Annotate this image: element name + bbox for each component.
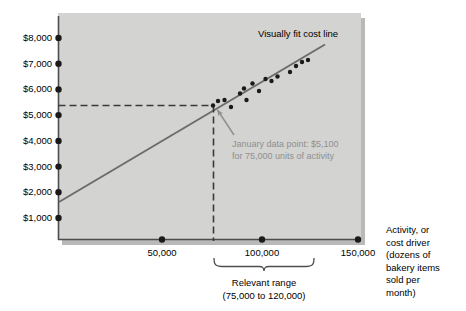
data-point <box>306 58 310 62</box>
data-point <box>222 98 226 102</box>
january-callout-line-1: January data point: $5,100 <box>232 138 339 150</box>
data-point <box>257 89 261 93</box>
data-point <box>250 81 254 85</box>
data-point <box>300 60 304 64</box>
data-point-january <box>211 103 215 107</box>
january-callout-line-2: for 75,000 units of activity <box>232 150 339 162</box>
x-axis-caption-line-2: cost driver <box>386 237 464 250</box>
visually-fit-cost-line <box>59 45 325 203</box>
relevant-range-line-1: Relevant range <box>223 276 306 289</box>
january-data-point-callout: January data point: $5,100 for 75,000 un… <box>232 138 339 162</box>
x-axis-tick-label: 100,000 <box>245 247 279 258</box>
x-axis-tick-label: 50,000 <box>147 247 176 258</box>
x-axis-caption: Activity, or cost driver (dozens of bake… <box>386 224 464 299</box>
data-point <box>229 105 233 109</box>
x-axis-caption-line-4: bakery items <box>386 262 464 275</box>
data-point <box>294 64 298 68</box>
cost-behavior-scatter-chart: $8,000$7,000$6,000$5,000$4,000$3,000$2,0… <box>0 0 466 311</box>
relevant-range-line-2: (75,000 to 120,000) <box>223 289 306 302</box>
data-point <box>288 70 292 74</box>
relevant-range-brace <box>214 258 314 271</box>
data-point <box>244 98 248 102</box>
x-axis-caption-line-3: (dozens of <box>386 249 464 262</box>
data-point <box>263 77 267 81</box>
data-point <box>238 91 242 95</box>
visually-fit-cost-line-label: Visually fit cost line <box>258 28 338 39</box>
data-point <box>216 99 220 103</box>
data-point <box>269 79 273 83</box>
x-axis-caption-line-5: sold per <box>386 274 464 287</box>
data-point <box>275 74 279 78</box>
data-point <box>242 86 246 90</box>
relevant-range-label: Relevant range (75,000 to 120,000) <box>223 276 306 302</box>
x-axis-caption-line-6: month) <box>386 287 464 300</box>
x-axis-caption-line-1: Activity, or <box>386 224 464 237</box>
x-axis-tick-label: 150,000 <box>341 247 375 258</box>
january-callout-arrow <box>218 110 235 135</box>
